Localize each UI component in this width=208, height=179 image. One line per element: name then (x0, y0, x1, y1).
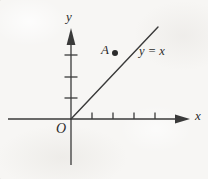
origin-label: O (56, 122, 66, 136)
line-equation-label: y = x (139, 45, 165, 58)
y-axis-label: y (66, 10, 72, 23)
point-a-label: A (101, 43, 109, 56)
x-axis-arrowhead (175, 115, 190, 124)
x-axis-label: x (195, 109, 201, 122)
coordinate-plane-figure: y x O A y = x (0, 0, 208, 179)
plot-canvas (0, 0, 208, 179)
line-y-equals-x (71, 27, 158, 119)
y-axis-arrowhead (67, 28, 76, 45)
point-a-dot (112, 50, 118, 56)
